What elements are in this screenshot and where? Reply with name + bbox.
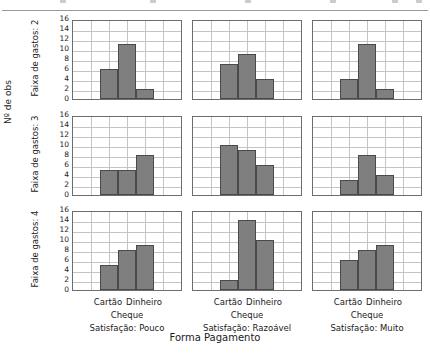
gridline-v-1 [91, 21, 92, 99]
row-strip-label-1: Faixa de gastos: 3 [20, 112, 32, 196]
bar-carto-r2-c1 [220, 280, 238, 290]
y-tick-10: 10 [53, 141, 69, 149]
plot-area-r0-c2 [312, 20, 422, 100]
bar-dinheiro-r2-c2 [376, 245, 394, 290]
scan-blip-4 [392, 0, 398, 3]
gridline-v-1 [211, 117, 212, 195]
panel-r0-c2 [312, 20, 422, 100]
header-rule [2, 10, 428, 11]
plot-area-r2-c2 [312, 211, 422, 291]
y-tick-0: 0 [53, 286, 69, 294]
y-tick-6: 6 [53, 256, 69, 264]
y-tick-16: 16 [53, 111, 69, 119]
y-tick-14: 14 [53, 25, 69, 33]
bar-cheque-r2-c1 [238, 220, 256, 290]
x-tick-dinheiro: Dinheiro [366, 297, 402, 307]
panel-r0-c0: 0246810121416 [72, 20, 182, 100]
panel-r1-c2 [312, 116, 422, 196]
gridline-v-5 [403, 212, 404, 290]
scan-blip-5 [416, 0, 422, 3]
panel-r2-c2: CartãoDinheiroChequeSatisfação: Muito [312, 211, 422, 291]
y-tick-10: 10 [53, 236, 69, 244]
gridline-v-5 [283, 117, 284, 195]
x-tick-labels-c1: CartãoDinheiro [192, 297, 302, 309]
y-tick-0: 0 [53, 95, 69, 103]
bar-cheque-r0-c1 [238, 54, 256, 99]
gridline-v-1 [211, 21, 212, 99]
x-axis-title: Forma Pagamento [0, 332, 430, 343]
x-tick-carto: Cartão [214, 297, 242, 307]
y-tick-12: 12 [53, 226, 69, 234]
gridline-v-4 [145, 21, 146, 99]
y-tick-labels-r0-c2 [293, 15, 309, 105]
bar-carto-r2-c2 [340, 260, 358, 290]
y-tick-labels-r1-c1 [173, 111, 189, 201]
gridline-v-5 [403, 21, 404, 99]
gridline-v-5 [163, 117, 164, 195]
bar-dinheiro-r1-c2 [376, 175, 394, 195]
y-tick-labels-r2-c0: 0246810121416 [53, 206, 69, 296]
scan-blip-2 [245, 0, 251, 3]
x-tick-dinheiro: Dinheiro [126, 297, 162, 307]
gridline-v-1 [91, 212, 92, 290]
x-tick-carto: Cartão [334, 297, 362, 307]
y-tick-2: 2 [53, 85, 69, 93]
bar-dinheiro-r2-c0 [136, 245, 154, 290]
bar-carto-r0-c1 [220, 64, 238, 99]
bar-dinheiro-r0-c0 [136, 89, 154, 99]
y-tick-8: 8 [53, 151, 69, 159]
page-scan-artifact [0, 0, 430, 8]
y-tick-16: 16 [53, 15, 69, 23]
y-tick-12: 12 [53, 131, 69, 139]
y-tick-labels-r0-c0: 0246810121416 [53, 15, 69, 105]
y-tick-8: 8 [53, 55, 69, 63]
bar-carto-r1-c2 [340, 180, 358, 195]
row-strip-text-2: Faixa de gastos: 4 [30, 207, 40, 291]
gridline-v-5 [283, 212, 284, 290]
y-tick-labels-r2-c2 [293, 206, 309, 296]
bar-dinheiro-r0-c2 [376, 89, 394, 99]
bar-cheque-r2-c2 [358, 250, 376, 290]
bar-cheque-r0-c0 [118, 44, 136, 99]
y-tick-labels-r0-c1 [173, 15, 189, 105]
x-tick-cheque-c2: Cheque [312, 310, 422, 320]
x-tick-labels-c2: CartãoDinheiro [312, 297, 422, 309]
gridline-v-5 [163, 21, 164, 99]
scan-blip-1 [150, 0, 156, 3]
y-tick-labels-r1-c0: 0246810121416 [53, 111, 69, 201]
x-tick-labels-c0: CartãoDinheiro [72, 297, 182, 309]
plot-area-r2-c1 [192, 211, 302, 291]
x-tick-cheque-c1: Cheque [192, 310, 302, 320]
bar-cheque-r1-c0 [118, 170, 136, 195]
scan-blip-0 [60, 0, 66, 3]
x-tick-carto: Cartão [94, 297, 122, 307]
bar-dinheiro-r1-c0 [136, 155, 154, 195]
row-strip-text-0: Faixa de gastos: 2 [30, 16, 40, 100]
plot-area-r1-c1 [192, 116, 302, 196]
y-tick-12: 12 [53, 35, 69, 43]
panel-r1-c1 [192, 116, 302, 196]
y-tick-labels-r1-c2 [293, 111, 309, 201]
gridline-v-5 [163, 212, 164, 290]
gridline-v-1 [91, 117, 92, 195]
row-strip-label-2: Faixa de gastos: 4 [20, 207, 32, 291]
bar-carto-r1-c1 [220, 145, 238, 195]
gridline-v-5 [403, 117, 404, 195]
row-strip-text-1: Faixa de gastos: 3 [30, 112, 40, 196]
gridline-v-5 [283, 21, 284, 99]
y-tick-4: 4 [53, 266, 69, 274]
plot-area-r2-c0 [72, 211, 182, 291]
gridline-v-4 [385, 21, 386, 99]
bar-cheque-r2-c0 [118, 250, 136, 290]
y-tick-4: 4 [53, 171, 69, 179]
gridline-v-1 [211, 212, 212, 290]
panel-r2-c0: 0246810121416CartãoDinheiroChequeSatisfa… [72, 211, 182, 291]
bar-carto-r2-c0 [100, 265, 118, 290]
y-tick-6: 6 [53, 161, 69, 169]
y-tick-0: 0 [53, 191, 69, 199]
y-tick-14: 14 [53, 121, 69, 129]
bar-cheque-r1-c2 [358, 155, 376, 195]
plot-area-r1-c0 [72, 116, 182, 196]
y-tick-14: 14 [53, 216, 69, 224]
scan-blip-3 [330, 0, 336, 3]
